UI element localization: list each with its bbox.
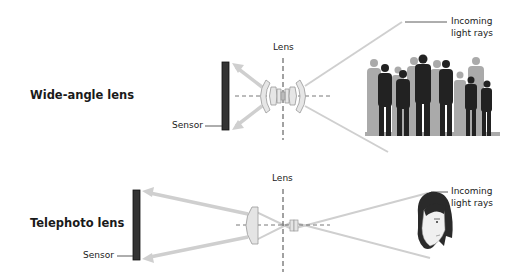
tele-incoming-ray-bottom	[292, 222, 430, 258]
head-portrait	[418, 192, 453, 249]
lens-comparison-diagram: Wide-angle lens Lens Sensor Incoming lig…	[0, 0, 518, 280]
tele-outgoing-ray-top	[150, 193, 248, 214]
tele-small-lens	[290, 220, 298, 231]
telephoto-diagram	[117, 187, 453, 272]
tele-incoming-label-1: Incoming	[451, 186, 493, 197]
wide-lens-label: Lens	[273, 42, 294, 53]
telephoto-title: Telephoto lens	[30, 216, 124, 230]
wide-sensor-label: Sensor	[172, 120, 203, 131]
wide-incoming-label-1: Incoming	[451, 16, 493, 27]
wide-angle-diagram	[205, 22, 500, 152]
tele-sensor-bar	[133, 190, 140, 260]
wide-incoming-label-2: light rays	[451, 28, 493, 39]
tele-lens-label: Lens	[272, 173, 293, 184]
wide-angle-title: Wide-angle lens	[30, 88, 134, 102]
wide-sensor-bar	[222, 62, 229, 130]
tele-sensor-label: Sensor	[83, 250, 114, 261]
people-silhouettes	[365, 55, 500, 137]
tele-incoming-label-2: light rays	[451, 198, 493, 209]
tele-outgoing-ray-bottom	[150, 237, 248, 257]
tele-incoming-ray-top	[292, 193, 428, 229]
